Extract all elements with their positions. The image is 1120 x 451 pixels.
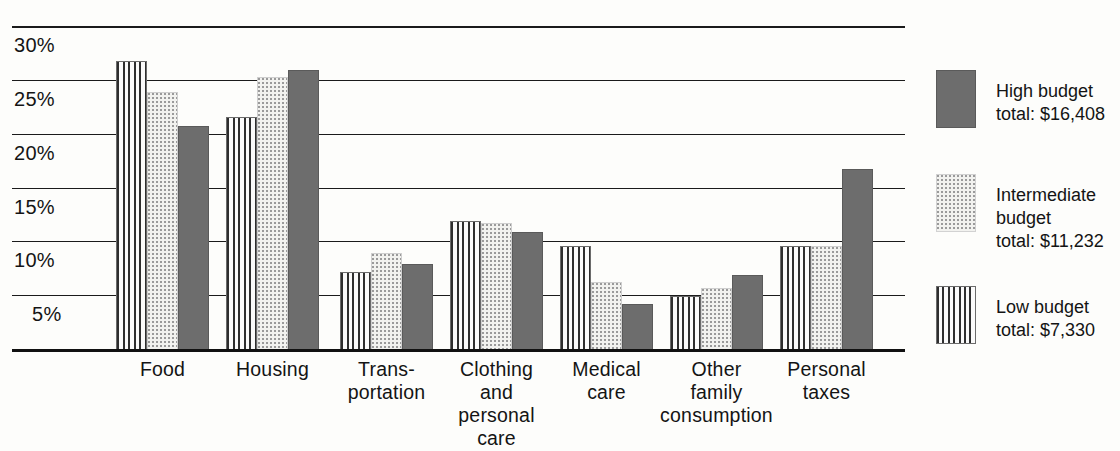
legend-label-intermediate-budget: Intermediate budget total: $11,232 — [996, 174, 1104, 253]
y-tick-label-15: 15% — [14, 197, 55, 217]
bar — [116, 61, 147, 350]
legend-label-high-budget: High budget total: $16,408 — [996, 70, 1105, 126]
bar — [147, 92, 178, 350]
bar — [591, 282, 622, 350]
bar — [622, 304, 653, 350]
y-tick-label-20: 20% — [14, 143, 55, 163]
bar — [732, 275, 763, 350]
bar — [340, 272, 371, 350]
legend-swatch-low-budget — [936, 286, 976, 344]
bar — [288, 70, 319, 350]
bar — [481, 223, 512, 350]
bar — [402, 264, 433, 350]
bar — [670, 296, 701, 350]
bar — [560, 246, 591, 350]
chart-figure: 30%25%20%15%10%5% FoodHousingTrans- port… — [0, 0, 1120, 451]
bar — [842, 169, 873, 350]
bar — [450, 221, 481, 350]
x-axis-label: Personal taxes — [747, 358, 907, 404]
legend-swatch-high-budget — [936, 70, 976, 128]
y-tick-label-10: 10% — [14, 250, 55, 270]
y-tick-label-25: 25% — [14, 89, 55, 109]
bar — [226, 117, 257, 350]
legend-item-high-budget: High budget total: $16,408 — [936, 70, 1105, 128]
legend-label-low-budget: Low budget total: $7,330 — [996, 286, 1095, 342]
bar — [701, 288, 732, 350]
plot-area — [12, 26, 905, 352]
legend-swatch-intermediate-budget — [936, 174, 976, 232]
legend-item-low-budget: Low budget total: $7,330 — [936, 286, 1095, 344]
bar — [178, 126, 209, 350]
legend-item-intermediate-budget: Intermediate budget total: $11,232 — [936, 174, 1104, 253]
bar — [811, 246, 842, 350]
bar — [512, 232, 543, 350]
bar — [371, 253, 402, 350]
y-tick-label-30: 30% — [14, 35, 55, 55]
y-tick-label-5: 5% — [32, 304, 62, 324]
bar — [780, 246, 811, 350]
bar-series-container — [12, 26, 905, 350]
bar — [257, 77, 288, 350]
x-axis-line — [12, 349, 905, 352]
